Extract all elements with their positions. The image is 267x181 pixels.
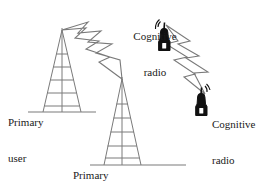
- label-line: radio: [126, 66, 184, 78]
- tower-leg-left: [43, 30, 62, 112]
- radio-signal-arc: [205, 86, 207, 92]
- label-primary-user-1: Primary user: [8, 92, 43, 181]
- tower-leg-right: [62, 30, 81, 112]
- label-line: Cognitive: [126, 30, 184, 42]
- label-line: user: [8, 152, 43, 164]
- radio-speaker: [199, 108, 203, 114]
- label-line: Primary: [73, 169, 108, 181]
- label-line: Primary: [8, 116, 43, 128]
- cognitive-radio-diagram: Primary user Primary user Cognitive radi…: [0, 0, 267, 181]
- label-cognitive-radio-1: Cognitive radio: [126, 6, 184, 102]
- label-line: radio: [212, 154, 255, 166]
- label-cognitive-radio-2: Cognitive radio: [212, 94, 255, 181]
- label-line: Cognitive: [212, 118, 255, 130]
- label-primary-user-2: Primary user: [73, 145, 108, 181]
